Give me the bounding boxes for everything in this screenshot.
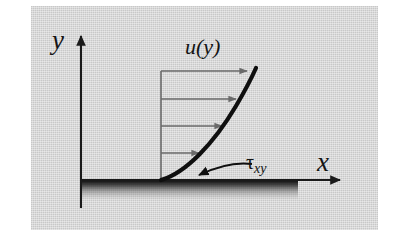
tau-subscript: xy	[254, 161, 267, 176]
tau-leader-arrow	[199, 163, 252, 175]
shear-stress-label: τxy	[246, 152, 267, 176]
x-axis-label: x	[317, 149, 329, 176]
wall-shadow	[81, 181, 298, 200]
tau-symbol: τ	[246, 151, 254, 173]
y-axis-label: y	[52, 27, 64, 54]
figure-root: y x u(y) τxy	[0, 0, 396, 240]
velocity-profile-label: u(y)	[185, 36, 220, 58]
